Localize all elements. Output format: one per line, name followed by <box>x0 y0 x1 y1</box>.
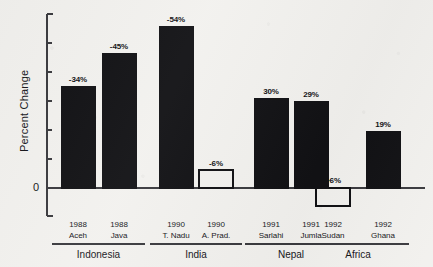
category-year-label: 1992 <box>353 220 413 229</box>
group-label: Indonesia <box>52 249 145 260</box>
bar <box>366 131 400 188</box>
bar-value-label: -54% <box>153 15 199 24</box>
bar <box>102 53 136 188</box>
bar-chart: Percent Change 0 -34%-45%-54%-6%30%29%+6… <box>0 0 433 267</box>
bar <box>294 101 328 188</box>
bar <box>254 98 288 188</box>
bar-value-label: 19% <box>360 120 406 129</box>
category-year-label: 1988 <box>89 220 149 229</box>
bar <box>199 170 233 188</box>
bar-value-label: 29% <box>288 90 334 99</box>
group-label: India <box>150 249 242 260</box>
category-place-label: Ghana <box>353 231 413 240</box>
category-year-label: 1990 <box>186 220 246 229</box>
bar <box>61 86 95 188</box>
group-label: Africa <box>307 249 409 260</box>
bar <box>316 188 350 206</box>
category-place-label: Java <box>89 231 149 240</box>
bar-value-label: -6% <box>193 159 239 168</box>
bar <box>159 26 193 188</box>
bar-value-label: +6% <box>310 176 356 185</box>
category-place-label: A. Prad. <box>186 231 246 240</box>
bar-value-label: -34% <box>55 75 101 84</box>
bar-value-label: -45% <box>96 42 142 51</box>
